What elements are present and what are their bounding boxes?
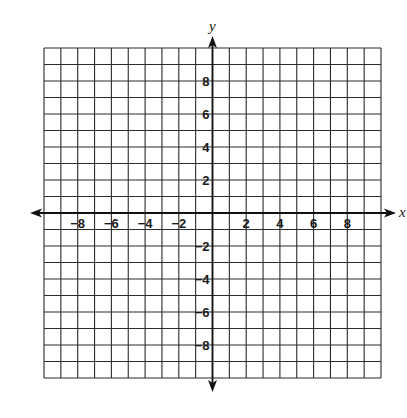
x-tick-label: 6 — [310, 216, 317, 231]
y-tick-label: 4 — [202, 140, 210, 155]
x-tick-label: −6 — [104, 216, 119, 231]
x-tick-label: −4 — [138, 216, 154, 231]
x-tick-label: 4 — [276, 216, 284, 231]
y-tick-label: 6 — [202, 107, 209, 122]
x-axis-label: x — [398, 204, 406, 220]
y-tick-label: −8 — [195, 338, 210, 353]
y-tick-label: 2 — [202, 173, 209, 188]
y-tick-label: −4 — [195, 272, 211, 287]
y-axis-label: y — [207, 18, 216, 34]
y-tick-label: 8 — [202, 74, 209, 89]
y-tick-label: −6 — [195, 305, 210, 320]
x-tick-label: −8 — [70, 216, 85, 231]
x-tick-labels: −8−6−4−22468 — [70, 216, 351, 231]
coordinate-plane: −8−6−4−22468 8642−2−4−6−8 x y — [0, 0, 407, 418]
x-tick-label: −2 — [171, 216, 186, 231]
axes — [30, 36, 396, 392]
x-tick-label: 8 — [344, 216, 351, 231]
x-tick-label: 2 — [243, 216, 250, 231]
y-tick-label: −2 — [195, 239, 210, 254]
